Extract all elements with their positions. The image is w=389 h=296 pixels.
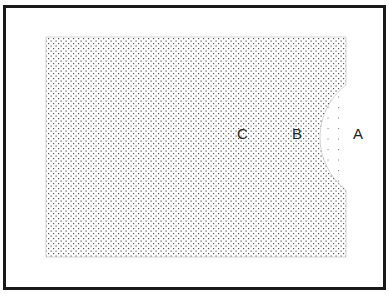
label-b: B — [292, 126, 302, 141]
region-diagram-svg — [0, 0, 389, 296]
label-c: C — [237, 126, 248, 141]
region-c — [46, 37, 346, 257]
label-a: A — [353, 126, 363, 141]
